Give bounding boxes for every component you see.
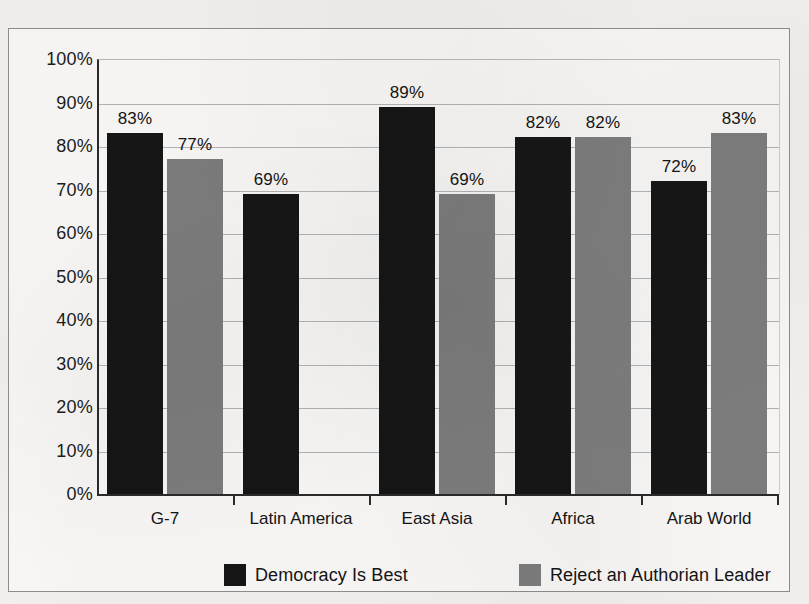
x-axis-category-label: Latin America	[250, 509, 353, 529]
bar	[243, 194, 299, 494]
chart-legend: Democracy Is BestReject an Authorian Lea…	[9, 564, 791, 598]
y-axis-tick-label: 100%	[15, 49, 93, 70]
gridline	[99, 104, 779, 105]
bar	[515, 137, 571, 494]
y-axis: 0%10%20%30%40%50%60%70%80%90%100%	[13, 29, 93, 593]
bar-value-label: 82%	[586, 113, 621, 133]
x-axis-tick	[505, 494, 507, 505]
bar-value-label: 83%	[722, 109, 757, 129]
chart-plot-wrapper: 0%10%20%30%40%50%60%70%80%90%100% 83%77%…	[9, 29, 791, 593]
x-axis-tick	[777, 494, 779, 505]
y-axis-tick-label: 70%	[15, 179, 93, 200]
bar-value-label: 69%	[450, 170, 485, 190]
bar-value-label: 83%	[118, 109, 153, 129]
x-axis-category-label: East Asia	[402, 509, 473, 529]
x-axis-category-label: Africa	[551, 509, 594, 529]
bar	[167, 159, 223, 494]
y-axis-tick-label: 40%	[15, 310, 93, 331]
bar	[575, 137, 631, 494]
y-axis-tick-label: 20%	[15, 397, 93, 418]
bar	[107, 133, 163, 494]
y-axis-tick-label: 10%	[15, 440, 93, 461]
y-axis-tick-label: 30%	[15, 353, 93, 374]
bar-value-label: 82%	[526, 113, 561, 133]
bar-value-label: 89%	[390, 83, 425, 103]
x-axis-tick	[641, 494, 643, 505]
bar-value-label: 77%	[178, 135, 213, 155]
x-axis-category-label: G-7	[151, 509, 179, 529]
legend-swatch-icon	[519, 564, 541, 586]
bar	[439, 194, 495, 494]
y-axis-tick-label: 80%	[15, 136, 93, 157]
legend-item[interactable]: Reject an Authorian Leader	[519, 564, 771, 586]
x-axis-baseline	[97, 494, 778, 496]
bar-value-label: 69%	[254, 170, 289, 190]
x-axis-category-label: Arab World	[667, 509, 752, 529]
bar	[651, 181, 707, 494]
y-axis-tick-label: 60%	[15, 223, 93, 244]
x-axis-tick	[369, 494, 371, 505]
legend-label: Reject an Authorian Leader	[550, 565, 771, 586]
y-axis-tick-label: 90%	[15, 92, 93, 113]
bar	[379, 107, 435, 494]
legend-label: Democracy Is Best	[255, 565, 408, 586]
legend-item[interactable]: Democracy Is Best	[224, 564, 408, 586]
y-axis-tick-label: 50%	[15, 266, 93, 287]
legend-swatch-icon	[224, 564, 246, 586]
bar	[711, 133, 767, 494]
x-axis-tick	[233, 494, 235, 505]
bar-value-label: 72%	[662, 157, 697, 177]
y-axis-tick-label: 0%	[15, 484, 93, 505]
chart-frame: 0%10%20%30%40%50%60%70%80%90%100% 83%77%…	[8, 28, 790, 592]
